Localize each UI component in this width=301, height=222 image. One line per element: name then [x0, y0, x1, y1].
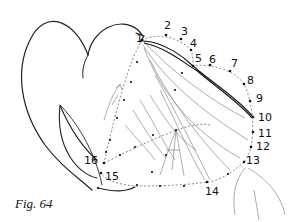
point-label-8: 8 [247, 75, 254, 86]
figure-caption: Fig. 64 [15, 196, 53, 212]
point-label-6: 6 [209, 54, 216, 65]
point-label-16: 16 [84, 155, 98, 166]
leaf-midrib [83, 55, 88, 78]
bottom-curve [98, 187, 135, 191]
point-label-12: 12 [256, 141, 270, 152]
point-label-7: 7 [231, 58, 238, 69]
point-label-14: 14 [205, 186, 219, 197]
point-label-4: 4 [190, 38, 197, 49]
leaf-notch [88, 24, 143, 55]
point-label-13: 13 [246, 155, 260, 166]
left-dotted-edge [104, 40, 142, 163]
point-label-10: 10 [258, 112, 272, 123]
point-label-11: 11 [258, 128, 272, 139]
point-label-5: 5 [195, 53, 202, 64]
point-label-1: 1 [136, 33, 143, 44]
inner-leaf-2 [60, 105, 102, 185]
point-label-2: 2 [164, 20, 171, 31]
lace-pricking-diagram [0, 0, 301, 222]
leaf-outline [22, 21, 92, 190]
point-label-9: 9 [256, 93, 263, 104]
point-label-3: 3 [181, 26, 188, 37]
point-label-15: 15 [105, 171, 119, 182]
